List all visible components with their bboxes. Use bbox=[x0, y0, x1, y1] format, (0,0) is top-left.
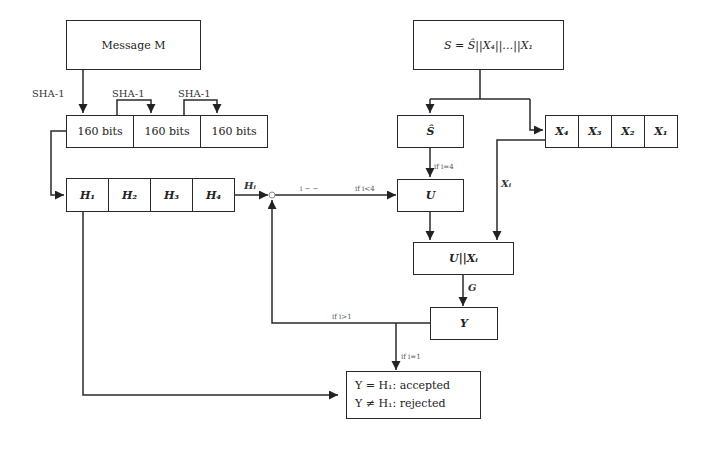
y-box: Y bbox=[430, 307, 498, 340]
secret-box: S = Ŝ||X₄||…||X₁ bbox=[413, 20, 564, 70]
concat-label: U||Xᵢ bbox=[449, 252, 478, 265]
h-block: H₃ bbox=[150, 178, 193, 212]
x-block: X₄ bbox=[545, 115, 579, 148]
h-block: H₂ bbox=[108, 178, 151, 212]
xi-label: Xᵢ bbox=[501, 178, 511, 189]
decrement-label: i − − bbox=[300, 185, 318, 193]
g-label: G bbox=[468, 282, 477, 293]
s-hat-label: Ŝ bbox=[427, 125, 435, 138]
x-block-label: X₂ bbox=[621, 125, 634, 138]
bit-block: 160 bits bbox=[66, 115, 134, 148]
sha1-label: SHA-1 bbox=[178, 88, 211, 99]
condition-label: if i=1 bbox=[401, 353, 421, 361]
condition-label: if i<4 bbox=[355, 185, 375, 193]
bit-block: 160 bits bbox=[133, 115, 201, 148]
result-box: Y = H₁: accepted Y ≠ H₁: rejected bbox=[346, 371, 481, 419]
concat-box: U||Xᵢ bbox=[413, 242, 514, 275]
bit-block: 160 bits bbox=[200, 115, 268, 148]
message-label: Message M bbox=[102, 39, 166, 52]
h-block-label: H₁ bbox=[80, 189, 95, 202]
sha1-label: SHA-1 bbox=[112, 88, 145, 99]
message-box: Message M bbox=[66, 20, 201, 70]
condition-label: if i>1 bbox=[332, 313, 352, 321]
bit-block-label: 160 bits bbox=[77, 125, 122, 138]
x-block: X₂ bbox=[611, 115, 645, 148]
y-label: Y bbox=[460, 317, 468, 330]
h-block-label: H₃ bbox=[164, 189, 179, 202]
s-hat-box: Ŝ bbox=[397, 115, 464, 148]
sha1-label: SHA-1 bbox=[32, 88, 65, 99]
accepted-label: Y = H₁: accepted bbox=[355, 377, 450, 395]
bit-block-label: 160 bits bbox=[211, 125, 256, 138]
u-label: U bbox=[426, 189, 436, 202]
x-block-label: X₁ bbox=[654, 125, 667, 138]
secret-label: S = Ŝ||X₄||…||X₁ bbox=[444, 39, 533, 52]
x-block: X₁ bbox=[644, 115, 678, 148]
h-block-label: H₂ bbox=[122, 189, 137, 202]
h-block-label: H₄ bbox=[206, 189, 221, 202]
h-block: H₄ bbox=[192, 178, 235, 212]
x-block-label: X₄ bbox=[555, 125, 568, 138]
h-block: H₁ bbox=[66, 178, 109, 212]
rejected-label: Y ≠ H₁: rejected bbox=[355, 395, 446, 413]
bit-block-label: 160 bits bbox=[144, 125, 189, 138]
h-output-label: Hᵢ bbox=[244, 180, 256, 191]
x-block: X₃ bbox=[578, 115, 612, 148]
u-box: U bbox=[397, 179, 464, 212]
x-block-label: X₃ bbox=[588, 125, 601, 138]
condition-label: if i=4 bbox=[434, 163, 454, 171]
